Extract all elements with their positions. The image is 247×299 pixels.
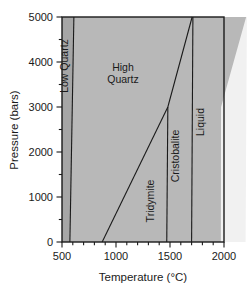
x-axis-title: Temperature (°C) [99, 271, 187, 283]
region-label-low-quartz: Low Quartz [58, 39, 70, 93]
x-tick-label-500: 500 [53, 250, 71, 262]
y-tick-label-1000: 1000 [29, 191, 53, 203]
phase-diagram-figure: 0 1000 2000 3000 4000 5000 500 1000 1500… [0, 0, 247, 299]
y-tick-label-5000: 5000 [29, 11, 53, 23]
x-tick-label-1500: 1500 [158, 250, 182, 262]
y-tick-label-3000: 3000 [29, 101, 53, 113]
region-label-high-quartz-line1: High [112, 61, 134, 73]
region-label-high-quartz-line2: Quartz [107, 73, 139, 85]
y-axis-title: Pressure (bars) [8, 90, 20, 169]
y-tick-label-0: 0 [47, 236, 53, 248]
x-tick-label-2000: 2000 [212, 250, 236, 262]
region-label-cristobalite: Cristobalite [169, 130, 181, 183]
x-tick-label-1000: 1000 [104, 250, 128, 262]
region-label-liquid: Liquid [194, 108, 206, 136]
y-tick-label-2000: 2000 [29, 146, 53, 158]
region-label-tridymite: Tridymite [144, 179, 156, 222]
phase-diagram-svg: 0 1000 2000 3000 4000 5000 500 1000 1500… [0, 0, 247, 299]
y-tick-label-4000: 4000 [29, 56, 53, 68]
